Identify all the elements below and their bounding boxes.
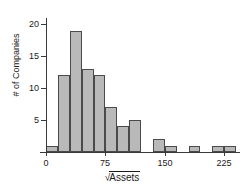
histogram-bar bbox=[58, 75, 70, 152]
x-tick-mark bbox=[46, 149, 47, 156]
histogram-bar bbox=[117, 126, 129, 152]
histogram-bar bbox=[70, 31, 82, 152]
x-axis-title: √Assets bbox=[0, 172, 245, 183]
y-tick-label: 20 bbox=[21, 20, 39, 29]
x-axis-radicand: Assets bbox=[109, 171, 140, 183]
x-axis-line bbox=[40, 152, 240, 153]
x-tick-label: 0 bbox=[26, 158, 66, 168]
y-tick-label-wrap: 5 bbox=[0, 116, 47, 125]
x-tick-mark bbox=[105, 149, 106, 156]
x-tick-label: 225 bbox=[204, 158, 244, 168]
x-tick-label: 75 bbox=[85, 158, 125, 168]
x-tick-mark bbox=[165, 149, 166, 156]
histogram-bar bbox=[94, 75, 106, 152]
sqrt-group: √Assets bbox=[105, 172, 141, 183]
histogram-bar bbox=[105, 107, 117, 152]
plot-area bbox=[46, 18, 236, 152]
histogram-bar bbox=[153, 139, 165, 152]
y-tick-label: 10 bbox=[21, 84, 39, 93]
y-tick-label-wrap: 20 bbox=[0, 20, 47, 29]
histogram-bar bbox=[129, 120, 141, 152]
y-tick-label-wrap: 10 bbox=[0, 84, 47, 93]
histogram-bar bbox=[82, 69, 94, 152]
x-tick-label: 150 bbox=[145, 158, 185, 168]
y-tick-label: 15 bbox=[21, 52, 39, 61]
histogram-chart: 5101520 075150225 # of Companies √Assets bbox=[0, 0, 245, 193]
y-tick-label-wrap: 15 bbox=[0, 52, 47, 61]
x-tick-mark bbox=[224, 149, 225, 156]
y-tick-label: 5 bbox=[21, 116, 39, 125]
y-axis-title: # of Companies bbox=[11, 5, 21, 125]
